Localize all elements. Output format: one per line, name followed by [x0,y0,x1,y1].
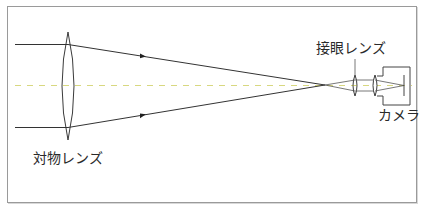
ray-camera-lower [375,86,404,92]
camera-lens-icon [373,75,377,96]
camera-label: カメラ [378,104,420,124]
arrow-upper-icon [140,53,146,58]
ray-upper-converging [68,45,325,86]
ray-camera-upper [375,80,404,86]
camera-body-icon [377,67,410,105]
arrow-lower-icon [140,113,146,118]
eyepiece-lens-label: 接眼レンズ [316,37,386,57]
objective-lens-label: 対物レンズ [33,147,103,167]
optical-diagram [0,0,430,209]
ray-diverge-upper [325,80,355,85]
ray-lower-converging [68,85,325,128]
